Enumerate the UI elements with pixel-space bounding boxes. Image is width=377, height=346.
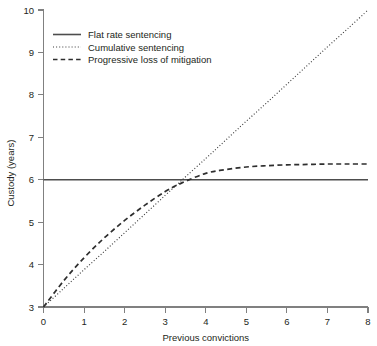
y-axis-tick-labels: 10 9 8 7 6 5 4 3 xyxy=(23,5,34,313)
x-tick-label-8: 8 xyxy=(365,316,370,327)
y-tick-label-5: 5 xyxy=(29,217,34,228)
x-tick-label-6: 6 xyxy=(284,316,289,327)
chart-container: 10 9 8 7 6 5 4 3 0 1 2 3 4 xyxy=(0,0,377,346)
series-progressive-loss-of-mitigation xyxy=(44,164,369,307)
x-axis-ticks xyxy=(44,307,369,313)
y-tick-label-9: 9 xyxy=(29,47,34,58)
y-axis-ticks xyxy=(38,10,44,307)
legend-label-flat-rate-sentencing: Flat rate sentencing xyxy=(88,29,171,40)
x-tick-label-7: 7 xyxy=(325,316,330,327)
x-tick-label-0: 0 xyxy=(41,316,46,327)
y-tick-label-3: 3 xyxy=(29,302,34,313)
x-tick-label-1: 1 xyxy=(81,316,86,327)
y-tick-label-7: 7 xyxy=(29,132,34,143)
y-tick-label-8: 8 xyxy=(29,89,34,100)
x-axis-title: Previous convictions xyxy=(162,332,249,343)
y-tick-label-4: 4 xyxy=(29,259,34,270)
y-tick-label-10: 10 xyxy=(23,5,34,16)
x-tick-label-4: 4 xyxy=(203,316,208,327)
y-axis-title: Custody (years) xyxy=(5,139,16,206)
legend-label-cumulative-sentencing: Cumulative sentencing xyxy=(88,42,184,53)
y-tick-label-6: 6 xyxy=(29,174,34,185)
x-axis-tick-labels: 0 1 2 3 4 5 6 7 8 xyxy=(41,316,371,327)
line-chart: 10 9 8 7 6 5 4 3 0 1 2 3 4 xyxy=(0,0,377,346)
x-tick-label-5: 5 xyxy=(244,316,249,327)
legend-label-progressive-loss-of-mitigation: Progressive loss of mitigation xyxy=(88,54,212,65)
x-tick-label-2: 2 xyxy=(122,316,127,327)
chart-legend: Flat rate sentencing Cumulative sentenci… xyxy=(53,29,212,65)
x-tick-label-3: 3 xyxy=(163,316,168,327)
